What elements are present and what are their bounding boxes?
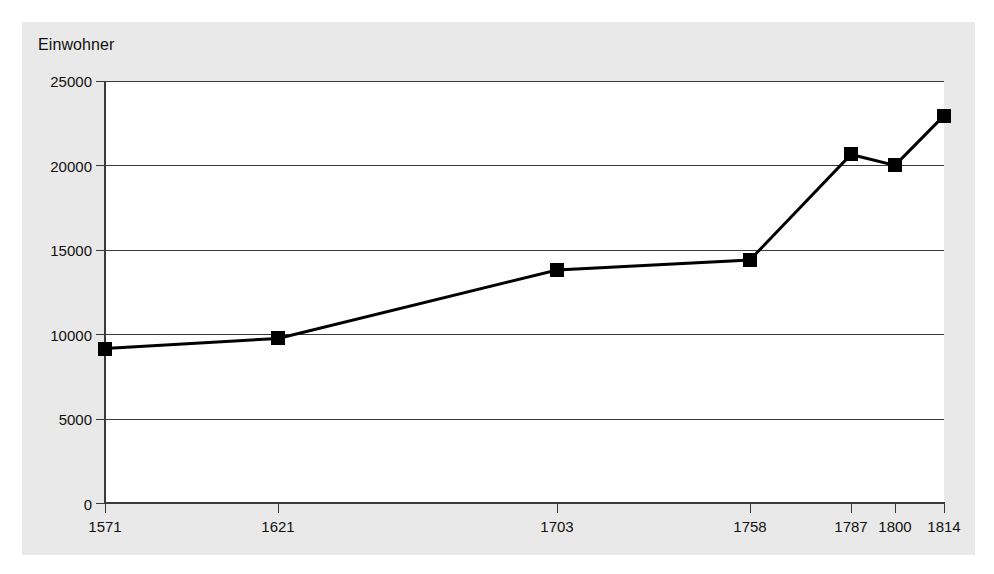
x-tick-mark-1571 (105, 504, 106, 513)
gridline-10000 (105, 334, 944, 335)
plot-area (105, 81, 944, 503)
x-tick-mark-1800 (895, 504, 896, 513)
data-point-1800 (888, 158, 902, 172)
data-point-1787 (844, 147, 858, 161)
data-point-1621 (271, 331, 285, 345)
gridline-25000 (105, 81, 944, 82)
y-axis-title: Einwohner (38, 36, 115, 54)
x-tick-label-1814: 1814 (927, 518, 960, 535)
y-tick-mark-25000 (96, 81, 105, 82)
x-tick-mark-1621 (278, 504, 279, 513)
y-tick-label-5000: 5000 (22, 411, 92, 428)
y-tick-mark-0 (96, 503, 105, 504)
x-tick-mark-1703 (557, 504, 558, 513)
x-axis-line (105, 502, 945, 504)
data-point-1571 (98, 342, 112, 356)
gridline-5000 (105, 419, 944, 420)
y-tick-label-10000: 10000 (22, 327, 92, 344)
y-tick-mark-10000 (96, 334, 105, 335)
x-tick-label-1621: 1621 (261, 518, 294, 535)
y-tick-mark-5000 (96, 419, 105, 420)
y-tick-label-20000: 20000 (22, 158, 92, 175)
y-tick-mark-15000 (96, 250, 105, 251)
y-tick-mark-20000 (96, 165, 105, 166)
y-tick-label-0: 0 (22, 496, 92, 513)
y-tick-label-25000: 25000 (22, 73, 92, 90)
y-axis-line (104, 81, 106, 504)
y-tick-label-15000: 15000 (22, 242, 92, 259)
x-tick-mark-1814 (944, 504, 945, 513)
gridline-15000 (105, 250, 944, 251)
x-tick-mark-1758 (750, 504, 751, 513)
x-tick-label-1571: 1571 (88, 518, 121, 535)
x-tick-label-1800: 1800 (878, 518, 911, 535)
x-tick-label-1703: 1703 (540, 518, 573, 535)
chart-figure: Einwohner 25000 20000 15000 10000 5000 0… (0, 0, 994, 574)
x-tick-mark-1787 (851, 504, 852, 513)
data-point-1814 (937, 109, 951, 123)
data-point-1703 (550, 263, 564, 277)
gridline-20000 (105, 165, 944, 166)
x-tick-label-1758: 1758 (733, 518, 766, 535)
data-point-1758 (743, 253, 757, 267)
x-tick-label-1787: 1787 (834, 518, 867, 535)
